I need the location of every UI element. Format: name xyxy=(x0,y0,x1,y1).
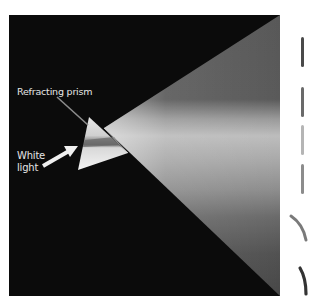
prism-dispersion-figure: Refracting prism White light xyxy=(0,0,325,305)
side-strip-2 xyxy=(301,87,304,117)
white-light-label-line2: light xyxy=(17,162,45,174)
figure-canvas xyxy=(0,0,325,305)
white-light-label-line1: White xyxy=(17,150,45,162)
side-strip-5 xyxy=(291,216,306,240)
side-strips xyxy=(291,37,306,294)
side-strip-4 xyxy=(301,164,304,194)
side-strip-3 xyxy=(301,125,304,155)
white-light-label: White light xyxy=(17,150,45,174)
refracting-prism-label: Refracting prism xyxy=(17,86,92,97)
side-strip-1 xyxy=(301,37,304,67)
side-strip-6 xyxy=(300,268,306,294)
